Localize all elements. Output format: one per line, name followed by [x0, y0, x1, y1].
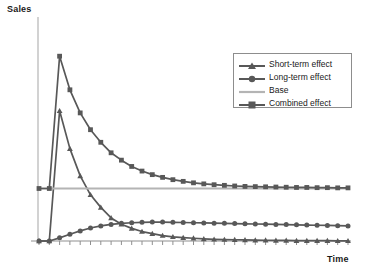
data-point	[78, 228, 83, 233]
data-point	[98, 140, 103, 145]
data-point	[160, 175, 165, 180]
data-point	[78, 111, 83, 116]
line-marker	[239, 84, 265, 96]
legend-label: Long-term effect	[269, 72, 331, 82]
data-point	[212, 221, 217, 226]
data-point	[304, 223, 309, 228]
legend-item-base: Base	[239, 83, 349, 96]
data-point	[232, 221, 237, 226]
data-point	[37, 186, 42, 191]
data-point	[263, 222, 268, 227]
data-point	[335, 223, 340, 228]
data-point	[253, 221, 258, 226]
legend-label: Base	[269, 85, 288, 95]
data-point	[284, 222, 289, 227]
data-point	[243, 221, 248, 226]
triangle-marker	[239, 58, 265, 70]
data-point	[181, 179, 186, 184]
data-point	[47, 239, 52, 244]
data-point	[37, 239, 42, 244]
data-point	[273, 222, 278, 227]
sales-effects-line-chart: Sales Time Short-term effect	[0, 0, 365, 273]
data-point	[160, 220, 165, 225]
data-point	[129, 164, 134, 169]
data-point	[57, 108, 63, 113]
legend-item-long-term-effect: Long-term effect	[239, 70, 349, 83]
data-point	[274, 185, 279, 190]
legend-label: Short-term effect	[269, 59, 332, 69]
circle-marker	[239, 71, 265, 83]
legend-label: Combined effect	[269, 98, 331, 108]
axis-lines	[31, 17, 351, 241]
data-point	[232, 184, 237, 189]
data-point	[222, 183, 227, 188]
data-point	[335, 185, 340, 190]
data-point	[304, 185, 309, 190]
data-point	[77, 173, 83, 178]
square-marker	[239, 97, 265, 109]
data-point	[57, 54, 62, 59]
legend-item-short-term-effect: Short-term effect	[239, 57, 349, 70]
data-point	[253, 184, 258, 189]
data-point	[150, 220, 155, 225]
data-point	[325, 223, 330, 228]
plot-area	[0, 0, 365, 273]
data-point	[140, 220, 145, 225]
chart-legend: Short-term effect Long-term effect Base	[233, 53, 352, 108]
data-point	[88, 225, 93, 230]
data-point	[284, 185, 289, 190]
data-point	[201, 220, 206, 225]
data-point	[47, 186, 52, 191]
data-point	[325, 185, 330, 190]
data-point	[346, 223, 351, 228]
data-point	[68, 87, 73, 92]
data-point	[119, 158, 124, 163]
data-point	[315, 223, 320, 228]
data-point	[201, 181, 206, 186]
data-point	[109, 222, 114, 227]
data-point	[150, 172, 155, 177]
data-point	[191, 180, 196, 185]
data-point	[129, 220, 134, 225]
data-point	[294, 222, 299, 227]
data-point	[119, 221, 124, 226]
data-point	[222, 221, 227, 226]
data-point	[109, 150, 114, 155]
data-point	[67, 146, 73, 151]
data-point	[98, 223, 103, 228]
data-point	[171, 177, 176, 182]
data-point	[294, 185, 299, 190]
data-point	[140, 169, 145, 174]
data-point	[263, 184, 268, 189]
data-point	[181, 220, 186, 225]
legend-item-combined-effect: Combined effect	[239, 96, 349, 109]
data-point	[346, 185, 351, 190]
data-point	[57, 235, 62, 240]
data-point	[191, 220, 196, 225]
x-axis-ticks	[39, 241, 348, 245]
data-point	[315, 185, 320, 190]
data-point	[170, 220, 175, 225]
data-point	[88, 127, 93, 132]
data-point	[67, 232, 72, 237]
data-point	[243, 184, 248, 189]
data-point	[212, 182, 217, 187]
